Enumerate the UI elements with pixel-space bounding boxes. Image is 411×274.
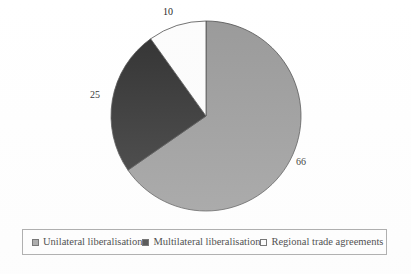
legend-label-multilateral: Multilateral liberalisation — [153, 236, 260, 248]
pie-chart-figure: 10 25 66 Unilateral liberalisation Multi… — [0, 0, 411, 274]
legend-item-multilateral-liberalisation[interactable]: Multilateral liberalisation — [142, 236, 260, 248]
data-label-unilateral-liberalisation: 66 — [296, 156, 306, 167]
legend-swatch-icon-multilateral — [142, 239, 149, 246]
legend-swatch-icon-unilateral — [32, 239, 39, 246]
chart-legend: Unilateral liberalisation Multilateral l… — [22, 229, 387, 255]
data-label-regional-trade-agreements: 10 — [163, 6, 173, 17]
data-label-multilateral-liberalisation: 25 — [90, 89, 100, 100]
legend-swatch-icon-regional — [260, 239, 267, 246]
pie-slice-group — [111, 21, 301, 211]
legend-item-unilateral-liberalisation[interactable]: Unilateral liberalisation — [32, 236, 142, 248]
legend-item-regional-trade-agreements[interactable]: Regional trade agreements — [260, 236, 383, 248]
pie-plot-area: 10 25 66 — [0, 0, 411, 224]
legend-label-unilateral: Unilateral liberalisation — [43, 236, 142, 248]
pie-svg — [0, 0, 411, 224]
legend-label-regional: Regional trade agreements — [271, 236, 383, 248]
